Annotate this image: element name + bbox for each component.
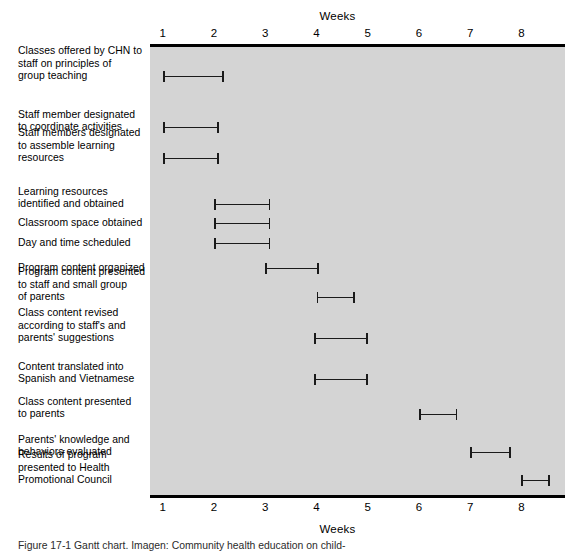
axis-tick-top-7: 7 (467, 27, 473, 39)
axis-title-top: Weeks (0, 10, 580, 22)
axis-tick-top-1: 1 (160, 27, 166, 39)
task-label: Results of programpresented to HealthPro… (0, 449, 142, 487)
axis-tick-bottom-8: 8 (518, 501, 524, 513)
task-label-line: presented to Health (18, 462, 142, 475)
task-label-line: Class content presented (18, 396, 142, 409)
gantt-bar-end-cap (317, 263, 319, 274)
axis-tick-bottom-3: 3 (262, 501, 268, 513)
task-label-line: Parents' knowledge and (18, 434, 142, 447)
task-label-line: resources (18, 152, 142, 165)
task-label: Learning resourcesidentified and obtaine… (0, 186, 142, 211)
gantt-bar-span (470, 452, 511, 454)
task-label: Classes offered by CHN tostaff on princi… (0, 45, 142, 83)
gantt-bar-span (317, 297, 355, 299)
axis-tick-top-6: 6 (416, 27, 422, 39)
task-label-line: Classroom space obtained (18, 217, 142, 230)
task-label-line: Program content presented (18, 266, 142, 279)
axis-tick-bottom-5: 5 (365, 501, 371, 513)
gantt-bar-end-cap (548, 475, 550, 486)
task-label-line: staff on principles of (18, 58, 142, 71)
gantt-bar-end-cap (269, 218, 271, 229)
task-label-line: to assemble learning (18, 140, 142, 153)
gantt-bar (163, 122, 219, 133)
gantt-bar (163, 71, 224, 82)
gantt-bar-end-cap (269, 238, 271, 249)
gantt-bar-span (163, 158, 219, 160)
gantt-bar-end-cap (366, 333, 368, 344)
gantt-bar (314, 333, 368, 344)
gantt-bar (314, 374, 368, 385)
task-label-line: of parents (18, 291, 142, 304)
axis-tick-bottom-7: 7 (467, 501, 473, 513)
gantt-bar-span (314, 379, 368, 381)
plot-area (150, 47, 565, 495)
task-label-line: Class content revised (18, 307, 142, 320)
task-label: Class content presentedto parents (0, 396, 142, 421)
gantt-bar (214, 238, 270, 249)
gantt-bar-span (214, 243, 270, 245)
task-label-column: Classes offered by CHN tostaff on princi… (0, 47, 150, 495)
axis-tick-top-8: 8 (518, 27, 524, 39)
gantt-bar (470, 447, 511, 458)
gantt-bar-span (314, 338, 368, 340)
task-label-line: parents' suggestions (18, 332, 142, 345)
task-label-line: group teaching (18, 70, 142, 83)
axis-rule-bottom (150, 495, 565, 498)
gantt-bar (317, 292, 355, 303)
task-label-line: Content translated into (18, 361, 142, 374)
axis-tick-bottom-1: 1 (160, 501, 166, 513)
task-label-line: Classes offered by CHN to (18, 45, 142, 58)
gantt-bar-span (419, 414, 457, 416)
task-label: Program content presentedto staff and sm… (0, 266, 142, 304)
gantt-bar-end-cap (269, 199, 271, 210)
task-label-line: according to staff's and (18, 320, 142, 333)
task-label: Staff members designatedto assemble lear… (0, 127, 142, 165)
axis-tick-bottom-4: 4 (313, 501, 319, 513)
axis-tick-top-5: 5 (365, 27, 371, 39)
gantt-bar (214, 199, 270, 210)
task-label-line: Results of program (18, 449, 142, 462)
gantt-bar (214, 218, 270, 229)
task-label: Classroom space obtained (0, 217, 142, 230)
gantt-bar-span (163, 76, 224, 78)
gantt-bar-span (265, 268, 319, 270)
gantt-bar (163, 153, 219, 164)
gantt-bar-end-cap (217, 122, 219, 133)
axis-tick-bottom-2: 2 (211, 501, 217, 513)
task-label-line: Promotional Council (18, 474, 142, 487)
task-label-line: Staff members designated (18, 127, 142, 140)
task-label-line: Learning resources (18, 186, 142, 199)
gantt-bar-end-cap (509, 447, 511, 458)
axis-ticks-bottom: 12345678 (0, 501, 580, 517)
task-label-line: identified and obtained (18, 198, 142, 211)
axis-tick-top-4: 4 (313, 27, 319, 39)
gantt-bar-end-cap (353, 292, 355, 303)
gantt-bar (419, 409, 457, 420)
axis-ticks-top: 12345678 (0, 27, 580, 43)
axis-tick-top-2: 2 (211, 27, 217, 39)
gantt-bar-end-cap (217, 153, 219, 164)
axis-tick-bottom-6: 6 (416, 501, 422, 513)
task-label-line: to parents (18, 408, 142, 421)
gantt-bar (521, 475, 549, 486)
task-label-line: Day and time scheduled (18, 237, 142, 250)
task-label: Content translated intoSpanish and Vietn… (0, 361, 142, 386)
figure-caption: Figure 17-1 Gantt chart. Imagen: Communi… (18, 540, 563, 552)
task-label-line: to staff and small group (18, 279, 142, 292)
gantt-bar-span (214, 204, 270, 206)
gantt-bar-end-cap (366, 374, 368, 385)
task-label-line: Spanish and Vietnamese (18, 373, 142, 386)
task-label: Day and time scheduled (0, 237, 142, 250)
task-label-line: Staff member designated (18, 109, 142, 122)
task-label: Class content revisedaccording to staff'… (0, 307, 142, 345)
gantt-bar-end-cap (222, 71, 224, 82)
gantt-bar-end-cap (456, 409, 458, 420)
gantt-bar-span (521, 480, 549, 482)
gantt-bar-span (214, 223, 270, 225)
axis-tick-top-3: 3 (262, 27, 268, 39)
axis-title-bottom: Weeks (0, 523, 580, 535)
gantt-bar (265, 263, 319, 274)
gantt-bar-span (163, 127, 219, 129)
